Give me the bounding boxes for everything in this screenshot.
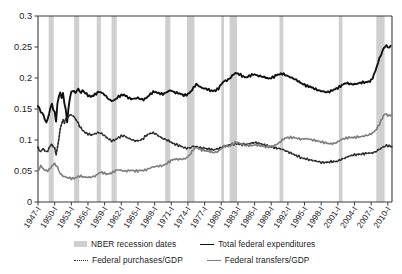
legend-label-total-expenditures: Total federal expenditures: [218, 239, 315, 249]
y-tick-label: 0.2: [19, 73, 32, 83]
series-line-0: [38, 45, 391, 122]
recession-band: [187, 16, 194, 202]
chart-figure: 00.050.10.150.20.250.31947-I1950-I1953-I…: [0, 0, 402, 274]
recession-band: [221, 16, 224, 202]
legend-item-total-expenditures: Total federal expenditures: [200, 239, 315, 249]
recession-band: [230, 16, 237, 202]
recession-band: [339, 16, 343, 202]
y-tick-label: 0.3: [19, 11, 32, 21]
y-tick-label: 0.1: [19, 135, 32, 145]
recession-band: [165, 16, 170, 202]
legend-label-nber: NBER recession dates: [91, 239, 176, 249]
legend-item-transfers: Federal transfers/GDP: [207, 255, 310, 265]
recession-band: [112, 16, 117, 202]
y-tick-label: 0.15: [14, 104, 32, 114]
y-tick-label: 0: [27, 197, 32, 207]
legend-row-2: Federal purchases/GDP Federal transfers/…: [74, 255, 320, 265]
legend-item-purchases: Federal purchases/GDP: [74, 255, 183, 265]
legend-row-1: NBER recession dates Total federal expen…: [74, 239, 325, 249]
x-tick-label: 2010-I: [371, 205, 393, 230]
recession-band-swatch-icon: [74, 241, 87, 247]
dotted-line-swatch-icon: [74, 260, 88, 261]
y-tick-label: 0.25: [14, 42, 32, 52]
plot-area: 00.050.10.150.20.250.31947-I1950-I1953-I…: [0, 0, 402, 238]
solid-gray-line-swatch-icon: [207, 260, 221, 261]
chart-legend: NBER recession dates Total federal expen…: [0, 236, 402, 274]
y-tick-label: 0.05: [14, 166, 32, 176]
legend-item-nber: NBER recession dates: [74, 239, 176, 249]
solid-black-line-swatch-icon: [200, 244, 214, 245]
recession-band: [74, 16, 79, 202]
chart-svg: 00.050.10.150.20.250.31947-I1950-I1953-I…: [0, 0, 402, 238]
recession-band: [280, 16, 284, 202]
recession-band: [376, 16, 384, 202]
legend-label-purchases: Federal purchases/GDP: [92, 255, 183, 265]
legend-label-transfers: Federal transfers/GDP: [225, 255, 310, 265]
